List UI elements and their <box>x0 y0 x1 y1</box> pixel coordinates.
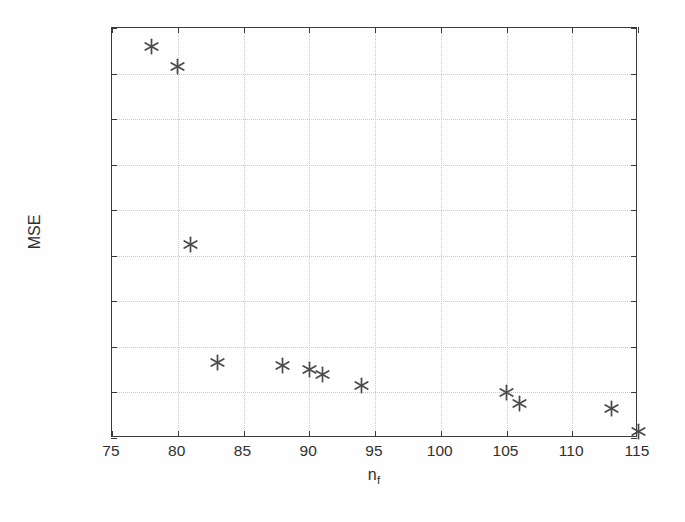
y-tick-mark <box>111 392 117 393</box>
x-tick-mark-top <box>638 27 639 33</box>
data-point-marker <box>603 400 620 417</box>
x-tick-label: 100 <box>427 442 453 460</box>
y-axis-title: MSE <box>26 215 44 250</box>
x-axis-title: nf <box>368 466 381 486</box>
x-tick-mark-top <box>572 27 573 33</box>
x-tick-mark <box>112 431 113 437</box>
x-tick-mark <box>507 431 508 437</box>
x-tick-mark-top <box>507 27 508 33</box>
gridline-horizontal <box>112 347 636 348</box>
gridline-vertical <box>309 28 310 436</box>
x-tick-label: 85 <box>234 442 251 460</box>
x-tick-mark-top <box>244 27 245 33</box>
x-tick-mark-top <box>178 27 179 33</box>
x-tick-label: 115 <box>624 442 649 460</box>
y-tick-mark <box>111 347 117 348</box>
y-tick-mark <box>111 74 117 75</box>
y-tick-mark <box>111 210 117 211</box>
y-tick-mark-right <box>631 165 637 166</box>
gridline-vertical <box>244 28 245 436</box>
figure-canvas: MSE 0.0020.0040.0060.0080.010.0120.0140.… <box>0 0 685 522</box>
gridline-horizontal <box>112 210 636 211</box>
x-tick-mark <box>638 431 639 437</box>
y-tick-mark-right <box>631 119 637 120</box>
x-tick-mark <box>375 431 376 437</box>
y-tick-mark <box>111 28 117 29</box>
x-tick-label: 75 <box>102 442 119 460</box>
x-tick-mark <box>178 431 179 437</box>
y-tick-mark <box>111 438 117 439</box>
y-tick-mark <box>111 301 117 302</box>
x-tick-mark-top <box>309 27 310 33</box>
gridline-horizontal <box>112 165 636 166</box>
y-tick-mark-right <box>631 74 637 75</box>
plot-area <box>111 27 637 437</box>
y-tick-mark-right <box>631 210 637 211</box>
y-tick-mark <box>111 119 117 120</box>
x-tick-label: 110 <box>559 442 584 460</box>
data-point-marker <box>274 357 291 374</box>
y-tick-mark-right <box>631 28 637 29</box>
x-axis-title-subscript: f <box>377 474 381 486</box>
x-axis-title-base: n <box>368 466 377 483</box>
y-tick-mark-right <box>631 347 637 348</box>
x-tick-mark <box>572 431 573 437</box>
data-point-marker <box>314 366 331 383</box>
y-tick-mark <box>111 165 117 166</box>
x-tick-mark-top <box>441 27 442 33</box>
y-tick-mark-right <box>631 392 637 393</box>
data-point-marker <box>511 395 528 412</box>
y-tick-mark <box>111 256 117 257</box>
gridline-horizontal <box>112 392 636 393</box>
x-tick-mark <box>309 431 310 437</box>
y-tick-mark-right <box>631 301 637 302</box>
x-tick-mark-top <box>375 27 376 33</box>
gridline-vertical <box>572 28 573 436</box>
gridline-vertical <box>375 28 376 436</box>
x-tick-label: 105 <box>492 442 518 460</box>
y-tick-mark-right <box>631 256 637 257</box>
x-tick-mark <box>441 431 442 437</box>
gridline-horizontal <box>112 74 636 75</box>
gridline-vertical <box>441 28 442 436</box>
gridline-horizontal <box>112 119 636 120</box>
data-point-marker <box>182 236 199 253</box>
x-tick-label: 90 <box>300 442 317 460</box>
x-tick-mark <box>244 431 245 437</box>
x-tick-label: 80 <box>168 442 185 460</box>
data-point-marker <box>143 38 160 55</box>
gridline-horizontal <box>112 256 636 257</box>
x-tick-label: 95 <box>365 442 382 460</box>
gridline-horizontal <box>112 301 636 302</box>
gridline-vertical <box>178 28 179 436</box>
gridline-vertical <box>507 28 508 436</box>
data-point-marker <box>209 354 226 371</box>
y-tick-mark-right <box>631 438 637 439</box>
